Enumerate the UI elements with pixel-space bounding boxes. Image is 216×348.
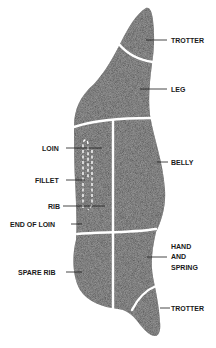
label-belly: BELLY [171, 159, 194, 166]
label-fillet: FILLET [35, 177, 59, 184]
label-trotter-top: TROTTER [171, 37, 204, 44]
label-rib: RIB [48, 203, 60, 210]
label-leg: LEG [171, 86, 186, 93]
pork-cuts-diagram: TROTTER LEG LOIN BELLY FILLET RIB END OF… [0, 0, 216, 348]
label-hand-line1: HAND [171, 243, 191, 250]
label-loin: LOIN [42, 145, 59, 152]
carcass-body [73, 8, 165, 336]
label-end-of-loin: END OF LOIN [10, 221, 55, 228]
label-spare-rib: SPARE RIB [18, 269, 56, 276]
label-hand-line3: SPRING [171, 264, 198, 271]
label-hand-line2: AND [171, 253, 186, 260]
label-trotter-bottom: TROTTER [171, 305, 204, 312]
